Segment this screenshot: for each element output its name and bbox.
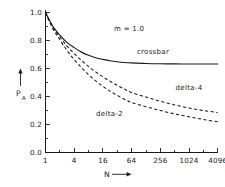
series-label-delta-4: delta-4 [176,84,203,92]
y-tick-label-1: 0.2 [30,120,42,129]
x-tick-label-5: 1024 [179,156,198,165]
x-tick-label-0: 1 [43,156,48,165]
y-tick-label-4: 0.8 [30,36,42,45]
y-tick-label-2: 0.4 [30,92,42,101]
x-axis-title: N [104,170,110,179]
x-tick-label-1: 4 [72,156,77,165]
series-label-crossbar: crossbar [137,48,169,56]
x-axis-title-group: N [104,170,132,179]
series-label-delta-2: delta-2 [96,110,123,118]
x-tick-label-3: 64 [127,156,137,165]
y-tick-label-5: 1.0 [30,8,42,17]
y-tick-marks [46,13,50,153]
plot-area: 0.0 0.2 0.4 0.6 0.8 1.0 1 4 16 64 256 10… [0,0,225,187]
x-tick-label-6: 4096 [208,156,225,165]
x-tick-label-4: 256 [153,156,168,165]
x-tick-marks [46,148,218,153]
x-tick-label-2: 16 [98,156,108,165]
y-axis-title-group: P A [16,69,26,101]
chart-figure: 0.0 0.2 0.4 0.6 0.8 1.0 1 4 16 64 256 10… [0,0,225,187]
y-axis-arrow-icon [18,69,22,74]
y-axis-title-subscript: A [22,95,26,101]
annotation-parameter-note: m = 1.0 [114,25,144,33]
y-axis-title: P [16,89,21,98]
x-axis-arrow-icon [127,172,132,176]
y-tick-label-3: 0.6 [30,64,42,73]
y-tick-label-0: 0.0 [30,148,42,157]
